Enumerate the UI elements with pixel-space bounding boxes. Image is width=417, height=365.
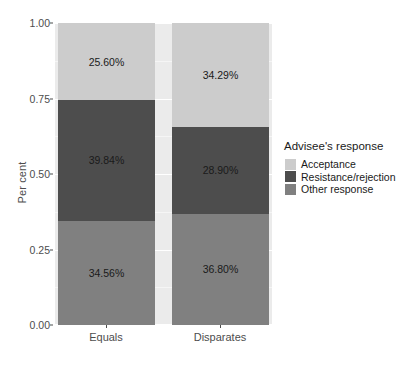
x-tick-label-equals: Equals — [89, 331, 123, 343]
y-tickmark-1.00 — [50, 23, 53, 24]
legend-swatch-icon-other-response — [285, 184, 296, 195]
y-axis-tick-labels: 1.00 0.75 0.50 0.25 0.00 — [12, 0, 50, 365]
y-tickmark-0.00 — [50, 325, 53, 326]
segment-equals-other-response[interactable]: 34.56% — [58, 221, 155, 325]
stacked-bar-chart: Per cent 1.00 0.75 0.50 0.25 0.00 25.60% — [0, 0, 417, 365]
segment-equals-resistance-rejection[interactable]: 39.84% — [58, 100, 155, 220]
segment-disparates-acceptance[interactable]: 34.29% — [172, 23, 269, 127]
segment-equals-acceptance[interactable]: 25.60% — [58, 23, 155, 100]
segment-disparates-other-response[interactable]: 36.80% — [172, 214, 269, 325]
segment-label: 39.84% — [89, 154, 125, 166]
legend-label: Acceptance — [301, 158, 356, 171]
segment-label: 28.90% — [203, 164, 239, 176]
y-tickmark-0.25 — [50, 249, 53, 250]
y-tickmark-0.50 — [50, 174, 53, 175]
legend-item-resistance-rejection[interactable]: Resistance/rejection — [284, 171, 414, 184]
bar-equals[interactable]: 25.60% 39.84% 34.56% — [58, 23, 155, 325]
legend-label: Other response — [301, 183, 373, 196]
legend-swatch-icon-resistance-rejection — [285, 171, 296, 182]
legend-title: Advisee's response — [284, 140, 414, 152]
legend-label: Resistance/rejection — [301, 171, 396, 184]
segment-label: 25.60% — [89, 56, 125, 68]
plot-panel: 25.60% 39.84% 34.56% 34.29% 28.90% 36.80… — [55, 23, 272, 325]
x-tick-label-disparates: Disparates — [194, 331, 247, 343]
legend-swatch-icon-acceptance — [285, 159, 296, 170]
y-tickmark-0.75 — [50, 98, 53, 99]
y-tick-label-0.25: 0.25 — [14, 244, 50, 256]
y-tick-label-0.75: 0.75 — [14, 93, 50, 105]
segment-label: 34.29% — [203, 69, 239, 81]
y-tick-label-0.50: 0.50 — [14, 168, 50, 180]
legend-item-other-response[interactable]: Other response — [284, 183, 414, 196]
x-tickmark-disparates — [220, 325, 221, 328]
y-tick-label-1.00: 1.00 — [14, 17, 50, 29]
y-tick-label-0.00: 0.00 — [14, 319, 50, 331]
x-tickmark-equals — [106, 325, 107, 328]
bar-disparates[interactable]: 34.29% 28.90% 36.80% — [172, 23, 269, 325]
segment-label: 36.80% — [203, 263, 239, 275]
legend-item-acceptance[interactable]: Acceptance — [284, 158, 414, 171]
segment-disparates-resistance-rejection[interactable]: 28.90% — [172, 127, 269, 214]
segment-label: 34.56% — [89, 267, 125, 279]
legend: Advisee's response Acceptance Resistance… — [284, 140, 414, 196]
